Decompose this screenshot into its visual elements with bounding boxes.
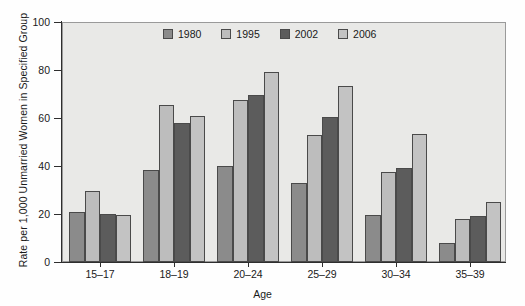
bar-1995-18-19: [159, 105, 175, 262]
legend-swatch-icon: [280, 29, 290, 39]
y-axis-tick: 40: [0, 166, 62, 167]
x-axis-tick-mark: [470, 262, 471, 267]
y-axis-tick-mark: [54, 166, 62, 167]
bar-2006-30-34: [412, 134, 428, 262]
x-axis-tick-label: 35–39: [433, 268, 507, 280]
y-axis-tick: 20: [0, 214, 62, 215]
bar-1980-30-34: [365, 215, 381, 262]
y-axis-tick: 80: [0, 70, 62, 71]
y-axis-tick-mark: [54, 214, 62, 215]
bar-2006-18-19: [190, 116, 206, 262]
legend-item-1995: 1995: [221, 29, 259, 40]
bar-2006-20-24: [264, 72, 280, 262]
y-axis-tick-mark: [54, 118, 62, 119]
bar-1980-15-17: [69, 212, 85, 262]
y-axis-tick: 0: [0, 262, 62, 263]
bar-2006-25-29: [338, 86, 354, 262]
x-axis-tick-mark: [396, 262, 397, 267]
bar-1980-20-24: [217, 166, 233, 262]
bar-2002-25-29: [322, 117, 338, 262]
x-axis-tick-label: 18–19: [137, 268, 211, 280]
chart-legend: 1980199520022006: [163, 29, 376, 40]
bar-1995-25-29: [307, 135, 323, 262]
bar-1980-35-39: [439, 243, 455, 262]
legend-item-1980: 1980: [163, 29, 201, 40]
x-axis-tick-label: 15–17: [63, 268, 137, 280]
legend-swatch-icon: [338, 29, 348, 39]
legend-label: 1995: [236, 29, 259, 40]
legend-item-2002: 2002: [280, 29, 318, 40]
bar-2002-30-34: [396, 168, 412, 262]
bar-1995-35-39: [455, 219, 471, 262]
bar-2002-35-39: [470, 216, 486, 262]
x-axis-tick-mark: [322, 262, 323, 267]
bar-2002-18-19: [174, 123, 190, 262]
y-axis-tick: 100: [0, 22, 62, 23]
x-axis-title: Age: [0, 288, 525, 300]
legend-label: 2006: [353, 29, 376, 40]
y-axis-tick-label: 100: [6, 17, 50, 28]
legend-label: 1980: [178, 29, 201, 40]
bar-1995-20-24: [233, 100, 249, 262]
x-axis-tick-mark: [248, 262, 249, 267]
y-axis-title: Rate per 1,000 Unmarried Women in Specif…: [17, 5, 29, 275]
x-axis-tick-mark: [100, 262, 101, 267]
legend-label: 2002: [295, 29, 318, 40]
bar-1980-25-29: [291, 183, 307, 262]
x-axis-tick-label: 20–24: [211, 268, 285, 280]
y-axis-tick-label: 80: [6, 65, 50, 76]
x-axis-tick-mark: [174, 262, 175, 267]
bars-layer: [62, 22, 506, 262]
y-axis-tick-label: 20: [6, 209, 50, 220]
legend-swatch-icon: [163, 29, 173, 39]
legend-swatch-icon: [221, 29, 231, 39]
x-axis-line: [61, 262, 506, 263]
bar-2002-20-24: [248, 95, 264, 262]
bar-chart-figure: Rate per 1,000 Unmarried Women in Specif…: [0, 0, 525, 306]
bar-1980-18-19: [143, 170, 159, 262]
bar-1995-15-17: [85, 191, 101, 262]
y-axis-tick-mark: [54, 70, 62, 71]
y-axis-tick-label: 0: [6, 257, 50, 268]
bar-1995-30-34: [381, 172, 397, 262]
y-axis-tick: 60: [0, 118, 62, 119]
y-axis-tick-mark: [54, 22, 62, 23]
x-axis-tick-label: 30–34: [359, 268, 433, 280]
x-axis-tick-label: 25–29: [285, 268, 359, 280]
y-axis-tick-label: 60: [6, 113, 50, 124]
bar-2002-15-17: [100, 214, 116, 262]
y-axis-tick-label: 40: [6, 161, 50, 172]
bar-2006-15-17: [116, 215, 132, 262]
legend-item-2006: 2006: [338, 29, 376, 40]
bar-2006-35-39: [486, 202, 502, 262]
